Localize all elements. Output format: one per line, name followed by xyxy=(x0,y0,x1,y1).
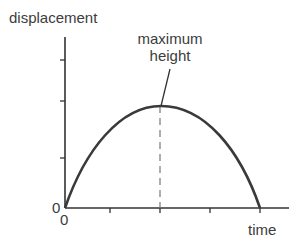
annotation-line2: height xyxy=(130,47,210,64)
annotation-line1: maximum xyxy=(130,30,210,47)
trajectory-curve xyxy=(65,106,260,208)
x-axis-label: time xyxy=(248,222,276,237)
max-height-annotation: maximum height xyxy=(130,30,210,64)
x-origin-label: 0 xyxy=(60,212,68,227)
y-axis-label: displacement xyxy=(9,10,97,25)
annotation-pointer xyxy=(161,69,170,106)
